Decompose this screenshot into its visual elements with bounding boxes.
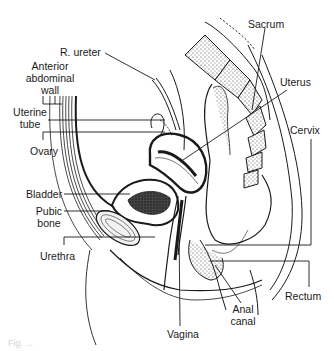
label-r-ureter: R. ureter (60, 46, 101, 58)
label-line: bone (34, 217, 64, 229)
label-rectum: Rectum (285, 290, 321, 302)
label-anal-canal: Anal canal (228, 303, 258, 327)
figure-caption: Fig. ... (8, 338, 33, 348)
pelvis-illustration (0, 0, 334, 351)
label-pubic-bone: Pubic bone (34, 205, 64, 229)
label-ovary: Ovary (30, 145, 58, 157)
label-bladder: Bladder (26, 188, 62, 200)
anatomy-diagram: R. ureter Anterior abdominal wall Uterin… (0, 0, 334, 351)
label-line: canal (228, 315, 258, 327)
label-sacrum: Sacrum (248, 18, 284, 30)
label-cervix: Cervix (290, 124, 320, 136)
label-line: wall (25, 84, 75, 96)
label-line: abdominal (25, 72, 75, 84)
label-urethra: Urethra (40, 250, 75, 262)
label-line: tube (12, 118, 48, 130)
label-line: Anterior (25, 60, 75, 72)
label-uterus: Uterus (280, 76, 311, 88)
label-line: Anal (228, 303, 258, 315)
label-uterine-tube: Uterine tube (12, 106, 48, 130)
label-vagina: Vagina (167, 328, 199, 340)
label-anterior-abdominal-wall: Anterior abdominal wall (25, 60, 75, 96)
label-line: Pubic (34, 205, 64, 217)
label-line: Uterine (12, 106, 48, 118)
